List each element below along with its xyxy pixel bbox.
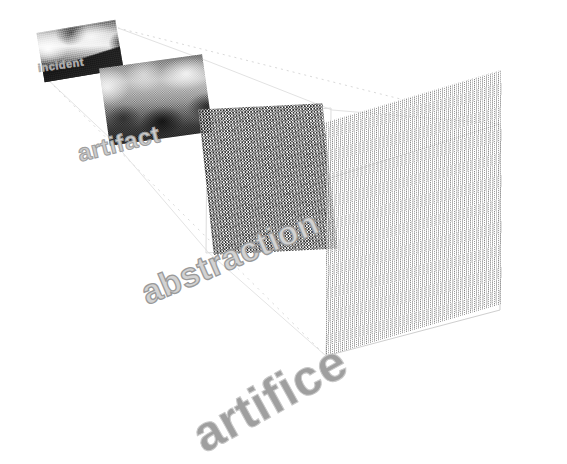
panel-artifice-grain: [326, 70, 502, 356]
figure-canvas: incident artifact abstraction artifice: [0, 0, 567, 464]
label-artifice: artifice: [182, 332, 357, 464]
panel-artifice: [326, 70, 502, 356]
